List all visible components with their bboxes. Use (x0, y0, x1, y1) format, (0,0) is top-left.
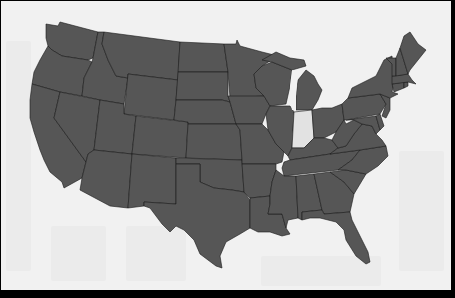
state-florida[interactable] (302, 210, 370, 264)
us-map (1, 1, 451, 290)
state-kansas[interactable] (186, 124, 242, 160)
state-new-mexico[interactable] (128, 154, 176, 208)
state-south-dakota[interactable] (176, 72, 230, 102)
state-rhode-island[interactable] (404, 82, 408, 88)
state-north-dakota[interactable] (178, 42, 228, 72)
state-arizona[interactable] (80, 150, 132, 208)
state-colorado[interactable] (132, 116, 188, 158)
state-nebraska[interactable] (174, 100, 236, 124)
map-frame (1, 1, 451, 290)
state-wyoming[interactable] (124, 74, 178, 120)
